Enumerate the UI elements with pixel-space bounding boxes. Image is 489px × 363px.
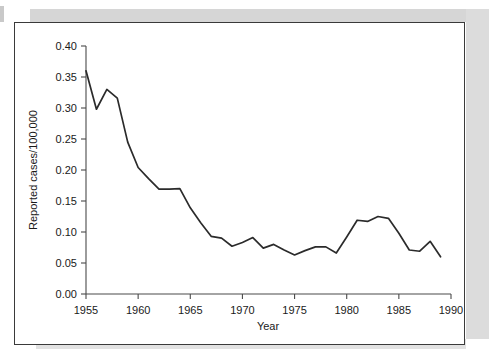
x-tick-label: 1990 bbox=[439, 304, 463, 316]
y-tick-label: 0.10 bbox=[56, 226, 77, 238]
line-chart: 0.000.050.100.150.200.250.300.350.40 195… bbox=[15, 23, 464, 344]
y-tick-label: 0.25 bbox=[56, 133, 77, 145]
x-axis-ticks bbox=[86, 294, 451, 299]
x-tick-label: 1980 bbox=[334, 304, 358, 316]
x-tick-label: 1955 bbox=[74, 304, 98, 316]
y-tick-label: 0.30 bbox=[56, 102, 77, 114]
y-tick-label: 0.05 bbox=[56, 257, 77, 269]
x-axis-title: Year bbox=[257, 320, 280, 332]
x-axis-tick-labels: 19551960196519701975198019851990 bbox=[74, 304, 463, 316]
x-tick-label: 1975 bbox=[282, 304, 306, 316]
figure-frame: 0.000.050.100.150.200.250.300.350.40 195… bbox=[14, 22, 465, 345]
page-scan-band-right bbox=[466, 9, 489, 339]
y-axis-tick-labels: 0.000.050.100.150.200.250.300.350.40 bbox=[56, 40, 77, 300]
y-axis-ticks bbox=[81, 46, 86, 294]
page-edge-artifact-left bbox=[0, 6, 4, 22]
x-tick-label: 1985 bbox=[387, 304, 411, 316]
y-tick-label: 0.00 bbox=[56, 288, 77, 300]
x-tick-label: 1965 bbox=[178, 304, 202, 316]
data-series-line bbox=[86, 71, 441, 257]
page-scan-band-top bbox=[30, 9, 466, 22]
x-tick-label: 1970 bbox=[230, 304, 254, 316]
y-tick-label: 0.40 bbox=[56, 40, 77, 52]
y-tick-label: 0.15 bbox=[56, 195, 77, 207]
y-tick-label: 0.35 bbox=[56, 71, 77, 83]
x-tick-label: 1960 bbox=[126, 304, 150, 316]
y-tick-label: 0.20 bbox=[56, 164, 77, 176]
y-axis-title: Reported cases/100,000 bbox=[27, 110, 39, 230]
